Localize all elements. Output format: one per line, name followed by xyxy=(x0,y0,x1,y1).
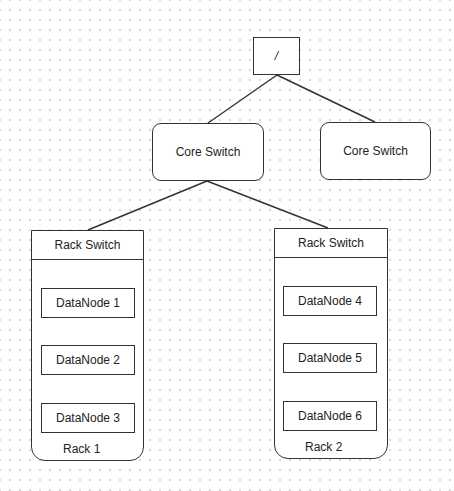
edge-core-to-rack1 xyxy=(88,181,207,230)
datanode-1[interactable]: DataNode 1 xyxy=(41,288,135,318)
core-switch-right-label: Core Switch xyxy=(343,144,408,158)
datanode-3-label: DataNode 3 xyxy=(56,411,120,425)
rack-2-switch-label: Rack Switch xyxy=(298,236,364,250)
root-label: / xyxy=(275,49,278,63)
datanode-3[interactable]: DataNode 3 xyxy=(41,403,135,433)
rack-2-label: Rack 2 xyxy=(305,440,342,454)
datanode-2[interactable]: DataNode 2 xyxy=(41,345,135,375)
rack-1-switch-label: Rack Switch xyxy=(54,238,120,252)
edge-root-to-core-right xyxy=(277,75,375,122)
datanode-4[interactable]: DataNode 4 xyxy=(283,286,377,316)
datanode-6[interactable]: DataNode 6 xyxy=(283,401,377,431)
rack-1-switch[interactable]: Rack Switch xyxy=(32,231,143,260)
edge-core-to-rack2 xyxy=(207,181,328,228)
datanode-4-label: DataNode 4 xyxy=(298,294,362,308)
datanode-1-label: DataNode 1 xyxy=(56,296,120,310)
core-switch-right[interactable]: Core Switch xyxy=(320,122,431,180)
edge-root-to-core-left xyxy=(208,75,277,123)
datanode-5[interactable]: DataNode 5 xyxy=(283,343,377,373)
rack-1-label: Rack 1 xyxy=(63,442,100,456)
rack-2-switch[interactable]: Rack Switch xyxy=(275,229,387,258)
core-switch-left[interactable]: Core Switch xyxy=(152,123,264,181)
datanode-2-label: DataNode 2 xyxy=(56,353,120,367)
core-switch-left-label: Core Switch xyxy=(176,145,241,159)
datanode-6-label: DataNode 6 xyxy=(298,409,362,423)
root-node[interactable]: / xyxy=(253,37,300,75)
datanode-5-label: DataNode 5 xyxy=(298,351,362,365)
